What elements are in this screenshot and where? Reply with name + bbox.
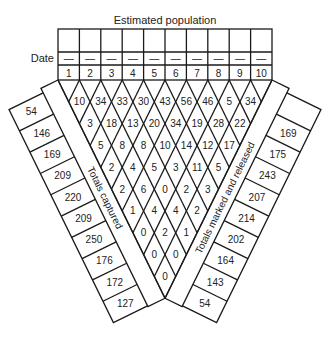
estimated-population-cell [123, 30, 142, 51]
column-number: 6 [173, 68, 179, 79]
band-value: 54 [26, 106, 38, 117]
lattice-value: 4 [173, 205, 179, 216]
estimated-population-cell [166, 30, 185, 51]
band-value: 214 [238, 213, 255, 224]
lattice-value: 1 [130, 205, 136, 216]
lattice-value: 3 [173, 162, 179, 173]
band-value: 209 [75, 213, 92, 224]
band-value: 172 [106, 277, 123, 288]
band-value: 243 [259, 170, 276, 181]
estimated-population-cell [59, 30, 78, 51]
estimated-population-cell [102, 30, 121, 51]
lattice-value: 2 [184, 184, 190, 195]
estimated-population-cell [209, 30, 228, 51]
column-number: 7 [194, 68, 200, 79]
sampling-diagram: Estimated population —1—2—3—4—5—6—7—8—9—… [0, 0, 330, 341]
date-cell: — [214, 53, 224, 64]
date-cell: — [85, 53, 95, 64]
band-value: 176 [96, 255, 113, 266]
lattice-value: 34 [170, 118, 182, 129]
column-number: 2 [87, 68, 93, 79]
column-number: 9 [237, 68, 243, 79]
lattice-value: 4 [152, 205, 158, 216]
lattice-value: 5 [216, 162, 222, 173]
estimated-population-cell [145, 30, 164, 51]
band-value: 250 [86, 234, 103, 245]
estimated-population-cell [187, 30, 206, 51]
lattice-value: 34 [95, 96, 107, 107]
band-value: 54 [199, 298, 211, 309]
column-number: 1 [66, 68, 72, 79]
lattice-value: 19 [192, 118, 204, 129]
lattice-value: 3 [205, 184, 211, 195]
date-cell: — [192, 53, 202, 64]
date-cell: — [256, 53, 266, 64]
lattice-value: 30 [138, 96, 150, 107]
lattice-value: 2 [119, 184, 125, 195]
lattice-value: 5 [226, 96, 232, 107]
lattice-value: 20 [149, 118, 161, 129]
band-value: 164 [217, 255, 234, 266]
lattice-value: 10 [74, 96, 86, 107]
date-cell: — [128, 53, 138, 64]
band-value: 169 [44, 149, 61, 160]
column-number: 4 [130, 68, 136, 79]
lattice-value: 56 [181, 96, 193, 107]
lattice-value: 22 [234, 118, 246, 129]
lattice-value: 2 [194, 205, 200, 216]
lattice-value: 5 [152, 162, 158, 173]
band-value: 169 [280, 128, 297, 139]
date-cell: — [107, 53, 117, 64]
estimated-population-cell [80, 30, 99, 51]
band-value: 146 [33, 128, 50, 139]
lattice-value: 33 [117, 96, 129, 107]
lattice-value: 2 [162, 227, 168, 238]
band-value: 209 [54, 170, 71, 181]
lattice-value: 13 [127, 118, 139, 129]
totals-captured-band: 54146169209220209250176172127Totals capt… [9, 80, 165, 323]
lattice-value: 14 [181, 140, 193, 151]
column-number: 10 [256, 68, 268, 79]
lattice-value: 4 [130, 162, 136, 173]
date-cell: — [64, 53, 74, 64]
lattice-value: 43 [159, 96, 171, 107]
lattice-value: 0 [173, 249, 179, 260]
lattice-value: 3 [87, 118, 93, 129]
lattice-value: 0 [162, 271, 168, 282]
lattice-value: 5 [98, 140, 104, 151]
date-cell: — [171, 53, 181, 64]
column-number: 3 [109, 68, 115, 79]
lattice-value: 6 [141, 184, 147, 195]
band-value: 220 [65, 192, 82, 203]
band-value: 175 [269, 149, 286, 160]
totals-marked-released-band: 16917524320721420216414354Totals marked … [165, 80, 321, 323]
lattice-value: 2 [109, 162, 115, 173]
band-value: 202 [228, 234, 245, 245]
lattice-value: 0 [162, 184, 168, 195]
column-number: 5 [152, 68, 158, 79]
lattice-value: 0 [141, 227, 147, 238]
lattice-value: 17 [224, 140, 236, 151]
lattice-value: 12 [202, 140, 214, 151]
lattice-value: 34 [245, 96, 257, 107]
lattice-value: 28 [213, 118, 225, 129]
lattice-value: 8 [119, 140, 125, 151]
lattice-value: 10 [159, 140, 171, 151]
date-cell: — [235, 53, 245, 64]
estimated-population-cell [230, 30, 249, 51]
estimated-population-cell [252, 30, 271, 51]
column-number: 8 [216, 68, 222, 79]
lattice-value: 11 [192, 162, 203, 173]
header-table: —1—2—3—4—5—6—7—8—9—10 [58, 29, 272, 80]
date-label: Date [31, 52, 54, 64]
band-value: 207 [249, 192, 266, 203]
date-cell: — [149, 53, 159, 64]
lattice-value: 18 [106, 118, 118, 129]
lattice-value: 1 [184, 227, 190, 238]
band-value: 143 [207, 277, 224, 288]
lattice-value: 8 [141, 140, 147, 151]
lattice-value: 46 [202, 96, 214, 107]
band-value: 127 [117, 298, 134, 309]
lattice-value: 0 [152, 249, 158, 260]
estimated-population-title: Estimated population [114, 14, 217, 26]
